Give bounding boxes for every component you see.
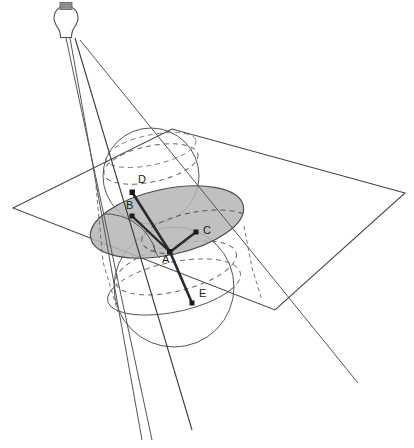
lower-sphere-contact-circle-front [107, 287, 234, 315]
diagram-root: A B C D E [0, 0, 414, 448]
point-marker-e [190, 301, 195, 306]
upper-sphere-cone-tangency-circle [100, 136, 201, 191]
label-point-b: B [126, 199, 133, 211]
conic-section-ellipse [84, 174, 256, 271]
bulb-glass [54, 6, 78, 38]
label-point-a: A [162, 253, 170, 265]
segment-a-e [170, 252, 192, 303]
label-point-c: C [203, 224, 211, 236]
lower-sphere-contact-circle-back [114, 259, 241, 287]
geometry-diagram: A B C D E [0, 0, 414, 448]
point-marker-b [130, 214, 135, 219]
light-bulb-icon [54, 3, 78, 38]
point-marker-d [130, 190, 136, 196]
label-point-d: D [138, 173, 146, 185]
upper-sphere-upper-circle [103, 126, 199, 174]
bulb-screw-base [60, 3, 72, 10]
dashed-construction-right [244, 226, 262, 300]
label-point-e: E [199, 287, 206, 299]
point-marker-c [194, 230, 199, 235]
